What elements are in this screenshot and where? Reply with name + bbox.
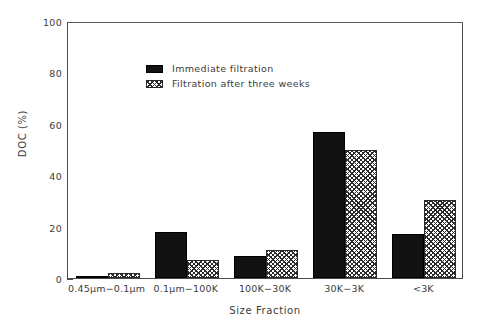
bar-three-weeks [266,250,298,278]
x-tick-label: <3K [413,283,434,294]
x-axis-tick-labels: 0.45μm−0.1μm0.1μm−100K100K−30K30K−3K<3K [67,283,463,299]
y-tick-label: 100 [36,17,62,28]
x-tick-label: 0.1μm−100K [153,283,218,294]
y-axis-tick-labels: 020406080100 [32,22,62,279]
legend-item: Filtration after three weeks [146,77,310,90]
x-tick-label: 0.45μm−0.1μm [68,283,145,294]
y-tick-label: 0 [36,274,62,285]
chart-legend: Immediate filtrationFiltration after thr… [146,62,310,92]
bar-three-weeks [187,260,219,278]
bar-three-weeks [108,273,140,278]
y-tick-label: 40 [36,171,62,182]
x-axis-title: Size Fraction [67,305,463,316]
bar-immediate [76,276,108,278]
bar-immediate [234,256,266,278]
legend-item: Immediate filtration [146,62,310,75]
bar-immediate [155,232,187,278]
y-axis-title: DOC (%) [17,94,28,174]
y-tick-label: 80 [36,68,62,79]
plot-area: Immediate filtrationFiltration after thr… [67,22,463,279]
legend-label: Immediate filtration [172,63,274,74]
y-tick-label: 60 [36,119,62,130]
x-tick-label: 100K−30K [239,283,291,294]
x-tick-label: 30K−3K [324,283,364,294]
y-tick-major [67,279,73,280]
y-tick-label: 20 [36,222,62,233]
bar-chart: DOC (%) 020406080100 Immediate filtratio… [0,0,483,325]
cross-hatch-swatch [146,80,163,88]
legend-label: Filtration after three weeks [172,78,310,89]
bar-immediate [392,234,424,278]
bar-immediate [313,132,345,278]
solid-black-swatch [146,65,163,73]
bar-three-weeks [345,150,377,279]
bar-three-weeks [424,200,456,278]
